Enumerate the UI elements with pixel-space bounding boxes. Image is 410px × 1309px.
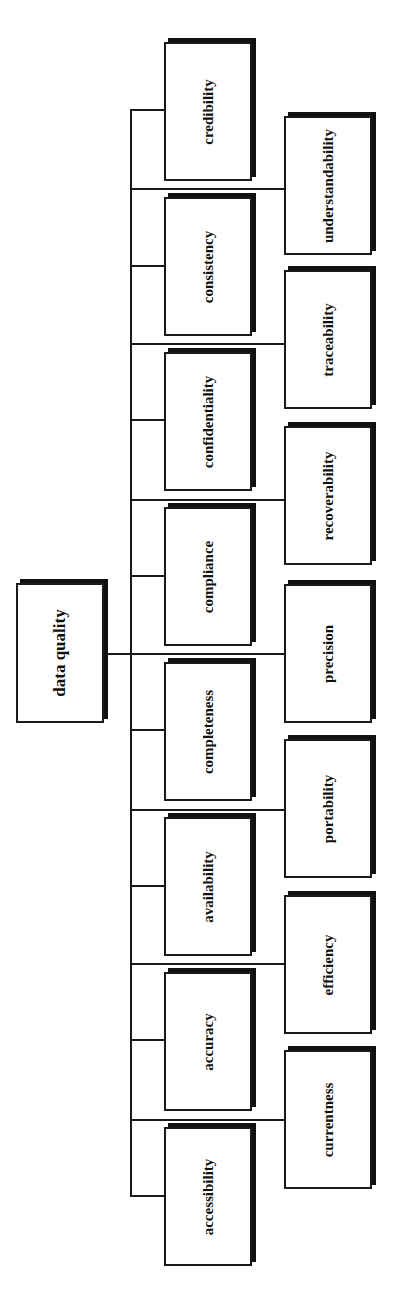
node-label: data quality: [50, 609, 70, 696]
node-recoverability: recoverability: [284, 426, 372, 565]
node-portability: portability: [284, 739, 372, 878]
stub-currentness: [131, 1119, 285, 1121]
node-accessibility: accessibility: [164, 1127, 252, 1266]
node-label: efficiency: [320, 934, 337, 995]
node-credibility: credibility: [164, 42, 252, 181]
stub-confidentiality: [131, 419, 165, 421]
node-availability: availability: [164, 817, 252, 956]
node-label: credibility: [200, 79, 217, 145]
node-label: understandability: [320, 128, 337, 242]
node-label: accuracy: [200, 1013, 217, 1070]
stub-completeness: [131, 729, 165, 731]
node-label: traceability: [320, 303, 337, 376]
stub-traceability: [131, 343, 285, 345]
node-confidentiality: confidentiality: [164, 352, 252, 491]
root-connector: [106, 653, 131, 655]
node-understandability: understandability: [284, 116, 372, 255]
node-label: confidentiality: [200, 375, 217, 468]
node-label: precision: [320, 624, 337, 682]
node-label: portability: [320, 774, 337, 842]
node-label: compliance: [200, 540, 217, 613]
stub-precision: [131, 653, 285, 655]
stub-compliance: [131, 575, 165, 577]
stub-accuracy: [131, 1039, 165, 1041]
node-label: recoverability: [320, 451, 337, 540]
node-accuracy: accuracy: [164, 972, 252, 1111]
node-completeness: completeness: [164, 662, 252, 801]
node-label: currentness: [320, 1082, 337, 1157]
node-label: completeness: [200, 689, 217, 773]
stub-availability: [131, 885, 165, 887]
stub-portability: [131, 809, 285, 811]
stub-credibility: [131, 109, 165, 111]
stub-accessibility: [131, 1195, 165, 1197]
stub-efficiency: [131, 963, 285, 965]
node-label: accessibility: [200, 1158, 217, 1235]
stub-recoverability: [131, 499, 285, 501]
node-label: availability: [200, 851, 217, 923]
stub-consistency: [131, 265, 165, 267]
node-compliance: compliance: [164, 507, 252, 646]
node-label: consistency: [200, 230, 217, 303]
node-efficiency: efficiency: [284, 895, 372, 1034]
stub-understandability: [131, 188, 285, 190]
node-currentness: currentness: [284, 1050, 372, 1189]
node-traceability: traceability: [284, 270, 372, 409]
root-node: data quality: [16, 583, 104, 723]
node-precision: precision: [284, 584, 372, 723]
node-consistency: consistency: [164, 197, 252, 336]
